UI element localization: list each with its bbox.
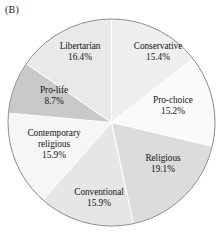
slice-name-pro-life: Pro-life	[21, 85, 87, 96]
slice-value-conservative: 15.4%	[119, 52, 197, 63]
slice-value-religious: 19.1%	[128, 164, 198, 175]
slice-label-libertarian: Libertarian 16.4%	[40, 41, 120, 63]
pie-chart: Conservative 15.4% Pro-choice 15.2% Reli…	[0, 0, 223, 234]
slice-value-conventional: 15.9%	[52, 198, 146, 209]
slice-name-contemporary-religious-line1: Contemporary	[8, 128, 100, 139]
slice-value-pro-life: 8.7%	[21, 96, 87, 107]
slice-label-conventional: Conventional 15.9%	[52, 187, 146, 209]
slice-value-pro-choice: 15.2%	[135, 106, 211, 117]
slice-name-religious: Religious	[128, 153, 198, 164]
slice-name-pro-choice: Pro-choice	[135, 95, 211, 106]
slice-label-contemporary-religious: Contemporary religious 15.9%	[8, 128, 100, 160]
slice-name-conservative: Conservative	[119, 41, 197, 52]
slice-name-libertarian: Libertarian	[40, 41, 120, 52]
slice-label-pro-life: Pro-life 8.7%	[21, 85, 87, 107]
slice-label-religious: Religious 19.1%	[128, 153, 198, 175]
slice-value-libertarian: 16.4%	[40, 52, 120, 63]
slice-name-conventional: Conventional	[52, 187, 146, 198]
slice-name-contemporary-religious-line2: religious	[8, 139, 100, 150]
slice-label-conservative: Conservative 15.4%	[119, 41, 197, 63]
slice-label-pro-choice: Pro-choice 15.2%	[135, 95, 211, 117]
slice-value-contemporary-religious: 15.9%	[8, 150, 100, 161]
